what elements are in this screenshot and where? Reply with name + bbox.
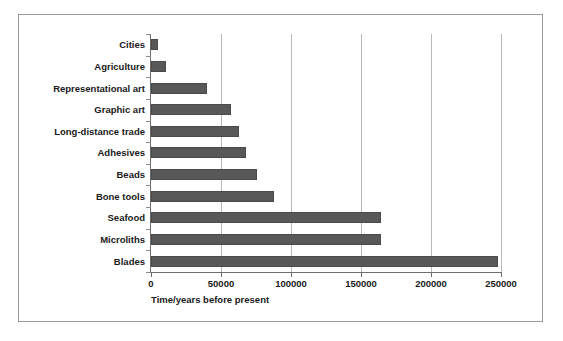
bar-row: Adhesives [151,142,246,164]
bar [151,104,231,115]
x-axis-tick [361,272,362,277]
bar-row: Graphic art [151,99,231,121]
bar [151,234,381,245]
bar [151,191,274,202]
x-axis-tick-label: 200000 [415,278,447,289]
bar [151,39,158,50]
category-label: Seafood [108,212,145,223]
bar-row: Blades [151,250,498,272]
x-axis-tick-label: 0 [148,278,153,289]
bar-row: Seafood [151,207,381,229]
bar-row: Representational art [151,77,207,99]
category-label: Microliths [100,234,145,245]
category-label: Long-distance trade [54,126,145,137]
bar-row: Beads [151,164,257,186]
x-axis-tick-label: 250000 [485,278,517,289]
bar-row: Long-distance trade [151,121,239,143]
x-axis-tick-label: 150000 [345,278,377,289]
category-label: Adhesives [97,147,145,158]
category-label: Bone tools [96,191,145,202]
bar [151,212,381,223]
x-axis-tick-label: 100000 [275,278,307,289]
bar-row: Bone tools [151,185,274,207]
bar [151,61,166,72]
x-axis-tick [291,272,292,277]
chart-figure-frame: CitiesAgricultureRepresentational artGra… [18,14,543,322]
x-axis-line [150,272,501,273]
category-label: Beads [116,169,145,180]
category-label: Agriculture [94,61,145,72]
gridline [431,34,432,272]
bar-row: Microliths [151,229,381,251]
bar [151,83,207,94]
x-axis-tick [221,272,222,277]
category-label: Representational art [53,83,145,94]
x-axis-tick [431,272,432,277]
bar-row: Agriculture [151,56,166,78]
category-label: Graphic art [94,104,145,115]
x-axis-tick [151,272,152,277]
bar [151,256,498,267]
x-axis-tick-label: 50000 [208,278,234,289]
bar-row: Cities [151,34,158,56]
bar [151,169,257,180]
x-axis-tick [501,272,502,277]
plot-area: CitiesAgricultureRepresentational artGra… [151,34,501,272]
category-label: Blades [114,256,145,267]
category-label: Cities [119,39,145,50]
bar [151,126,239,137]
gridline [501,34,502,272]
bar [151,147,246,158]
x-axis-title: Time/years before present [151,294,269,305]
